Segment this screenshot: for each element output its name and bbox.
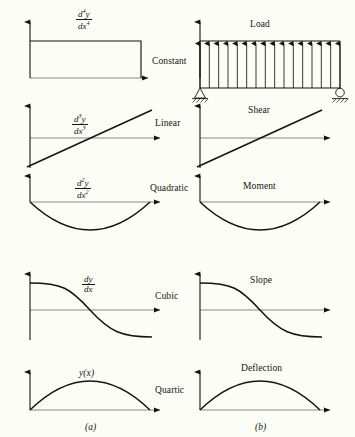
row-load-beam (192, 22, 348, 103)
caption-a: (a) (85, 422, 96, 432)
pin-support-hatching (193, 99, 209, 103)
label-slope: Slope (250, 276, 272, 286)
label-quartic: Quartic (155, 386, 184, 396)
label-y-of-x: y(x) (79, 369, 94, 379)
label-linear: Linear (155, 119, 180, 129)
roller-support-hatching (333, 99, 349, 103)
label-deflection: Deflection (241, 364, 282, 374)
label-constant: Constant (152, 57, 187, 67)
label-shear: Shear (248, 106, 270, 116)
caption-b: (b) (255, 422, 266, 432)
label-d3y-dx3: d3y dx3 (72, 113, 88, 137)
row-cubic-axes (30, 274, 160, 340)
load-arrow-group (200, 44, 340, 89)
curve-moment (200, 202, 320, 230)
row-deflection-axes (200, 372, 330, 410)
curve-quadratic (30, 202, 150, 230)
row-quartic-axes (30, 372, 160, 410)
label-d4y-dx4: d4y dx4 (76, 8, 92, 32)
beam-derivative-figure: d4y dx4 Constant Load d3y dx3 Linear She… (0, 0, 355, 437)
label-d2y-dx2: d2y dx2 (75, 177, 91, 201)
label-moment: Moment (243, 182, 276, 192)
row-linear-axes (27, 106, 160, 168)
row-quadratic-axes (30, 176, 160, 230)
label-dy-dx: dy dx (82, 275, 95, 295)
curve-linear (27, 110, 152, 167)
curve-shear (197, 110, 322, 167)
curve-quartic (30, 381, 150, 410)
pin-support-triangle (195, 88, 206, 98)
label-cubic: Cubic (155, 292, 178, 302)
curve-constant (30, 41, 141, 78)
roller-support-circle (336, 88, 345, 97)
curve-deflection (200, 381, 320, 410)
label-quadratic: Quadratic (150, 184, 188, 194)
label-load: Load (250, 20, 270, 30)
